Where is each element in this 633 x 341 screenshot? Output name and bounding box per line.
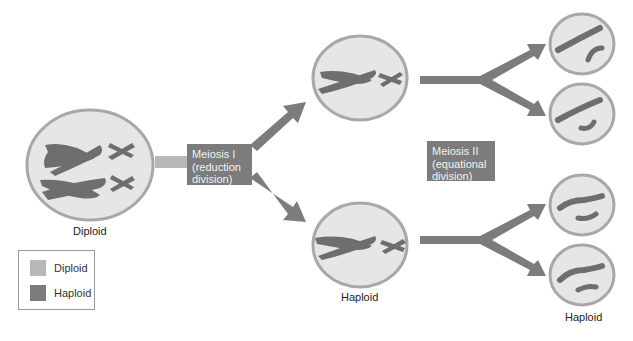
meiosis-2-title: Meiosis II: [432, 145, 490, 158]
product-cell-3: [550, 175, 614, 235]
meiosis-1-line3: division): [192, 173, 247, 186]
meiosis-1-arrows: [250, 102, 306, 222]
diploid-swatch: [30, 260, 46, 276]
legend-item-diploid: Diploid: [30, 260, 88, 276]
haploid-cell-bottom: [313, 203, 407, 287]
legend: Diploid Haploid: [18, 250, 95, 310]
meiosis-2-line2: (equational: [432, 158, 490, 171]
legend-label-haploid: Haploid: [54, 287, 91, 299]
legend-item-haploid: Haploid: [30, 285, 91, 301]
meiosis-1-line2: (reduction: [192, 161, 247, 174]
diploid-cell: [27, 110, 153, 220]
haploid-swatch: [30, 285, 46, 301]
product-cell-1: [550, 14, 614, 74]
haploid-label-meiosis-2: Haploid: [565, 311, 602, 323]
meiosis-2-line3: division): [432, 170, 490, 183]
meiosis-1-title: Meiosis I: [192, 148, 247, 161]
legend-label-diploid: Diploid: [54, 262, 88, 274]
product-cell-4: [550, 245, 614, 305]
meiosis-2-arrows-bottom: [420, 204, 546, 276]
meiosis-1-box: Meiosis I (reduction division): [187, 144, 252, 185]
haploid-cell-top: [313, 36, 407, 120]
diploid-label: Diploid: [73, 225, 107, 237]
meiosis-2-arrows-top: [420, 44, 546, 116]
diploid-connector: [155, 156, 187, 168]
haploid-label-meiosis-1: Haploid: [341, 291, 378, 303]
product-cell-2: [550, 84, 614, 144]
meiosis-2-box: Meiosis II (equational division): [427, 141, 495, 181]
